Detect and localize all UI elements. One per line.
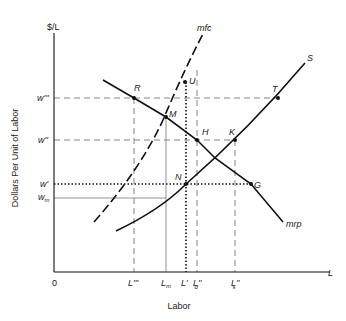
w3-label: w''' — [37, 93, 49, 103]
monopsony-labor-market-diagram: $/L L 0 Labor Dollars Per Unit of Labor … — [0, 0, 346, 321]
x-axis-title: Labor — [167, 301, 190, 311]
mrp-curve — [103, 80, 283, 222]
K-label: K — [229, 127, 236, 137]
guide-lines — [54, 70, 278, 272]
point-H — [195, 138, 199, 142]
point-G — [249, 182, 253, 186]
minimum-wage-lines — [54, 82, 251, 272]
point-T — [276, 96, 280, 100]
point-K — [233, 138, 237, 142]
curves — [94, 34, 305, 231]
point-M — [164, 115, 168, 119]
Ls-label: L''s — [231, 278, 240, 290]
x-axis-label: L — [328, 268, 333, 278]
H-label: H — [202, 127, 209, 137]
R-label: R — [134, 83, 141, 93]
L3-label: L''' — [128, 278, 138, 288]
y-axis-title: Dollars Per Unit of Labor — [10, 109, 20, 208]
axes — [54, 33, 330, 272]
w2-label: w'' — [38, 135, 48, 145]
point-U — [183, 80, 187, 84]
N-label: N — [175, 172, 182, 182]
Lm-label: Lm — [161, 278, 171, 289]
L1-label: L' — [181, 278, 188, 288]
G-label: G — [254, 180, 261, 190]
mfc-label: mfc — [197, 23, 212, 33]
point-N — [184, 182, 188, 186]
M-label: M — [169, 109, 177, 119]
y-axis-label: $/L — [47, 22, 60, 32]
mrp-label: mrp — [286, 219, 302, 229]
Ld-label: L''d — [193, 278, 202, 290]
supply-label: S — [307, 53, 313, 63]
point-R — [132, 96, 136, 100]
wm-label: wm — [38, 192, 50, 203]
U-label: U — [189, 76, 196, 86]
T-label: T — [272, 84, 279, 94]
w1-label: w' — [40, 179, 48, 189]
origin-label: 0 — [52, 278, 57, 288]
